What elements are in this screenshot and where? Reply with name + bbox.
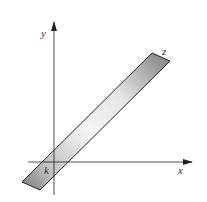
y-axis-label: y: [40, 27, 46, 39]
x-axis-label: x: [177, 164, 183, 176]
z-label: z: [161, 45, 167, 57]
diagram-canvas: y x z k: [0, 0, 207, 202]
